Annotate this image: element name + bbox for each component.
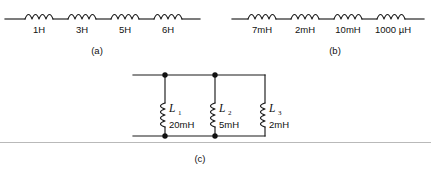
inductor-c-1-value: 20mH — [169, 119, 194, 130]
inductor-c-2-symbol: L — [218, 102, 225, 114]
inductor-c-3-coil — [261, 103, 266, 127]
inductor-c-1-coil — [161, 103, 166, 127]
inductor-a-1-value: 1H — [33, 24, 45, 35]
inductor-a-1-coil — [25, 15, 53, 20]
inductor-c-2-subscript: 2 — [228, 109, 232, 117]
caption-a: (a) — [91, 45, 103, 56]
inductor-c-2-value: 5mH — [219, 119, 239, 130]
inductor-a-3-coil — [111, 15, 139, 20]
inductor-b-1-value: 7mH — [252, 24, 272, 35]
circuit-c: L 1 20mH L 2 5mH L 3 2mH (c) — [133, 72, 289, 164]
figure-canvas: 1H 3H 5H 6H (a) 7mH 2mH — [0, 0, 431, 192]
circuit-b: 7mH 2mH 10mH 1000 µH (b) — [232, 15, 424, 57]
inductor-c-2-coil — [211, 103, 216, 127]
inductor-a-4-value: 6H — [162, 24, 174, 35]
inductor-c-1-symbol: L — [168, 102, 175, 114]
inductor-figure: 1H 3H 5H 6H (a) 7mH 2mH — [0, 0, 431, 192]
inductor-c-1-subscript: 1 — [178, 109, 182, 117]
caption-b: (b) — [329, 45, 341, 56]
inductor-b-2-coil — [291, 15, 319, 20]
inductor-b-4-coil — [377, 15, 405, 20]
inductor-a-4-coil — [154, 15, 182, 20]
inductor-b-3-value: 10mH — [335, 24, 360, 35]
inductor-c-3-subscript: 3 — [278, 109, 282, 117]
inductor-b-4-value: 1000 µH — [375, 24, 411, 35]
inductor-a-3-value: 5H — [119, 24, 131, 35]
node-dot-top-1 — [162, 72, 167, 77]
caption-c: (c) — [194, 153, 205, 164]
inductor-b-1-coil — [248, 15, 276, 20]
inductor-b-3-coil — [334, 15, 362, 20]
circuit-a: 1H 3H 5H 6H (a) — [5, 15, 200, 57]
node-dot-top-2 — [212, 72, 217, 77]
inductor-b-2-value: 2mH — [295, 24, 315, 35]
inductor-a-2-coil — [68, 15, 96, 20]
inductor-c-3-value: 2mH — [269, 119, 289, 130]
node-dot-bottom-1 — [162, 133, 167, 138]
inductor-a-2-value: 3H — [76, 24, 88, 35]
inductor-c-3-symbol: L — [268, 102, 275, 114]
node-dot-bottom-2 — [212, 133, 217, 138]
